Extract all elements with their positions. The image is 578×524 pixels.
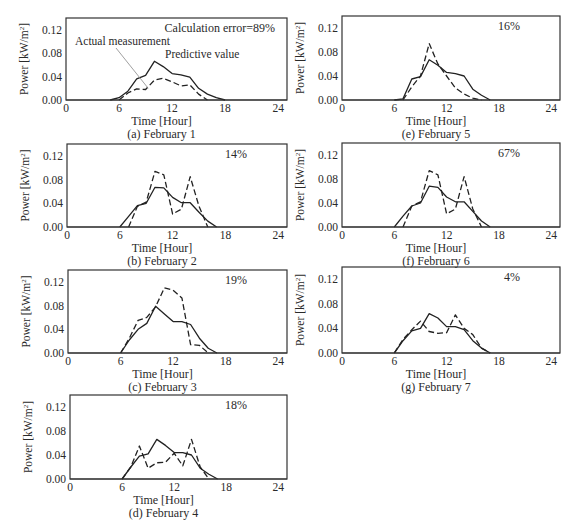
y-tick-label: 0.12: [318, 273, 338, 285]
x-tick-label: 6: [391, 229, 397, 241]
y-axis-label: Power [kW/m2]: [20, 275, 32, 347]
y-tick-label: 0.08: [318, 298, 338, 310]
legend-leader-line: [116, 48, 148, 88]
y-axis-label: Power [kW/m2]: [294, 274, 306, 346]
error-annotation: 4%: [504, 270, 520, 284]
y-axis-label: Power [kW/m2]: [294, 149, 306, 221]
x-axis-label: Time [Hour]: [406, 241, 467, 255]
y-tick-label: 0.12: [318, 149, 338, 161]
y-axis-label: Power [kW/m2]: [22, 401, 34, 473]
y-tick-label: 0.08: [318, 173, 338, 185]
y-tick-label: 0.00: [43, 221, 63, 233]
predictive-value-line: [119, 78, 207, 100]
predictive-value-line: [394, 315, 490, 353]
x-tick-label: 12: [441, 229, 453, 241]
legend-actual-measurement: Actual measurement: [75, 35, 171, 47]
y-tick-label: 0.00: [318, 347, 338, 359]
predictive-value-line: [121, 288, 209, 353]
y-axis-label: Power [kW/m2]: [19, 149, 31, 221]
x-tick-label: 24: [272, 102, 284, 114]
x-tick-label: 6: [391, 102, 397, 114]
x-tick-label: 18: [219, 102, 231, 114]
y-tick-label: 0.08: [46, 425, 66, 437]
panel-caption: (a) February 1: [127, 127, 196, 141]
x-tick-label: 0: [65, 355, 71, 367]
figure-grid: 0.000.040.080.1206121824Power [kW/m2]Tim…: [0, 0, 578, 524]
x-tick-label: 6: [391, 355, 397, 367]
y-tick-label: 0.12: [42, 24, 62, 36]
panel-caption: (f) February 6: [402, 254, 469, 268]
x-axis-label: Time [Hour]: [406, 367, 467, 381]
y-tick-label: 0.04: [318, 70, 338, 82]
x-tick-label: 18: [220, 355, 232, 367]
legend-predictive-value: Predictive value: [165, 48, 239, 60]
chart-panel-c: 0.000.040.080.1206121824Power [kW/m2]Tim…: [20, 270, 287, 394]
error-annotation: 19%: [225, 273, 247, 287]
actual-measurement-line: [122, 439, 218, 479]
plot-frame: [342, 267, 560, 353]
predictive-value-line: [403, 44, 482, 100]
y-tick-label: 0.04: [42, 71, 62, 83]
x-tick-label: 0: [64, 229, 70, 241]
x-tick-label: 0: [339, 102, 345, 114]
x-tick-label: 18: [220, 481, 232, 493]
error-annotation: Calculation error=89%: [165, 21, 275, 35]
chart-panel-f: 0.000.040.080.1206121824Power [kW/m2]Tim…: [294, 143, 560, 268]
panel-caption: (g) February 7: [401, 380, 470, 394]
x-tick-label: 24: [272, 355, 284, 367]
x-tick-label: 0: [67, 481, 73, 493]
plot-frame: [70, 395, 287, 479]
x-tick-label: 24: [272, 229, 284, 241]
y-tick-label: 0.08: [42, 47, 62, 59]
error-annotation: 14%: [225, 147, 247, 161]
x-axis-label: Time [Hour]: [406, 114, 467, 128]
x-tick-label: 24: [546, 355, 558, 367]
y-tick-label: 0.08: [44, 300, 64, 312]
y-tick-label: 0.00: [318, 221, 338, 233]
y-tick-label: 0.12: [43, 150, 63, 162]
x-tick-label: 6: [117, 229, 123, 241]
error-annotation: 67%: [498, 146, 520, 160]
y-axis-label: Power [kW/m2]: [18, 23, 30, 95]
panel-caption: (c) February 3: [128, 380, 197, 394]
x-tick-label: 18: [493, 229, 505, 241]
y-tick-label: 0.08: [43, 174, 63, 186]
x-tick-label: 12: [166, 102, 178, 114]
chart-panel-g: 0.000.040.080.1206121824Power [kW/m2]Tim…: [294, 267, 560, 394]
predictive-value-line: [403, 171, 482, 227]
panel-caption: (d) February 4: [129, 506, 198, 520]
y-tick-label: 0.00: [46, 473, 66, 485]
y-tick-label: 0.04: [43, 197, 63, 209]
y-tick-label: 0.00: [44, 347, 64, 359]
x-tick-label: 12: [441, 102, 453, 114]
x-tick-label: 18: [493, 102, 505, 114]
panel-caption: (e) February 5: [402, 127, 471, 141]
chart-panel-a: 0.000.040.080.1206121824Power [kW/m2]Tim…: [18, 18, 287, 141]
error-annotation: 18%: [225, 398, 247, 412]
plot-frame: [68, 270, 287, 353]
x-tick-label: 24: [273, 481, 285, 493]
x-axis-label: Time [Hour]: [131, 114, 192, 128]
x-tick-label: 12: [441, 355, 453, 367]
x-axis-label: Time [Hour]: [133, 493, 194, 507]
y-tick-label: 0.04: [46, 449, 66, 461]
x-tick-label: 24: [546, 229, 558, 241]
x-tick-label: 0: [339, 229, 345, 241]
actual-measurement-line: [121, 306, 217, 353]
plot-frame: [342, 143, 560, 227]
x-tick-label: 18: [220, 229, 232, 241]
x-axis-label: Time [Hour]: [132, 367, 193, 381]
x-tick-label: 12: [167, 229, 179, 241]
plot-frame: [342, 16, 560, 100]
y-tick-label: 0.00: [42, 94, 62, 106]
chart-panel-e: 0.000.040.080.1206121824Power [kW/m2]Tim…: [294, 16, 560, 141]
y-tick-label: 0.00: [318, 94, 338, 106]
x-tick-label: 18: [493, 355, 505, 367]
chart-panel-d: 0.000.040.080.1206121824Power [kW/m2]Tim…: [22, 395, 287, 520]
x-axis-label: Time [Hour]: [132, 241, 193, 255]
x-tick-label: 24: [546, 102, 558, 114]
y-tick-label: 0.12: [318, 22, 338, 34]
x-tick-label: 6: [119, 481, 125, 493]
x-tick-label: 0: [339, 355, 345, 367]
plot-frame: [67, 144, 287, 227]
